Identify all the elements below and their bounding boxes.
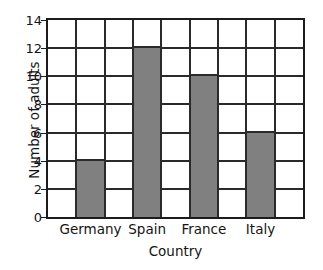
x-axis-tick-label: Germany (59, 221, 121, 237)
y-axis-tick-label: 8 (24, 98, 42, 111)
bar (75, 159, 105, 217)
x-axis-tick-labels: GermanySpainFranceItaly (46, 221, 305, 241)
y-axis-tick-label: 14 (24, 14, 42, 27)
x-axis-title: Country (46, 243, 305, 259)
bar (189, 74, 219, 217)
y-axis-tick-label: 2 (24, 182, 42, 195)
y-axis-tick-label: 4 (24, 154, 42, 167)
plot-area (46, 18, 305, 219)
x-axis-tick-label: France (181, 221, 226, 237)
bar (132, 46, 162, 217)
gridline-horizontal (48, 103, 303, 105)
plot-inner (48, 20, 303, 217)
bar (245, 131, 275, 217)
gridline-horizontal (48, 47, 303, 49)
y-axis-tick-label: 6 (24, 126, 42, 139)
y-axis-tick-label: 0 (24, 211, 42, 224)
chart-title-clip (0, 0, 323, 11)
gridline-horizontal (48, 75, 303, 77)
y-axis-tick-label: 10 (24, 70, 42, 83)
y-axis-tick-label: 12 (24, 42, 42, 55)
x-axis-tick-label: Spain (128, 221, 166, 237)
x-axis-tick-label: Italy (246, 221, 275, 237)
bar-chart-figure: Number of adults 02468101214 GermanySpai… (0, 0, 323, 270)
y-axis-tick-labels: 02468101214 (24, 18, 42, 219)
